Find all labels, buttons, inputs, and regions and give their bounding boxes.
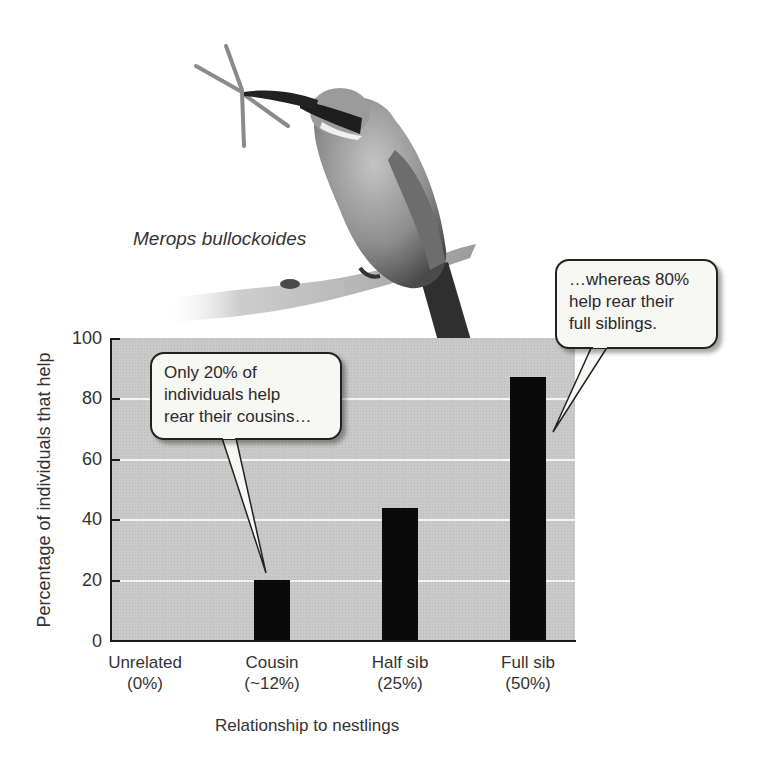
callout-tail-joins [0,0,757,764]
